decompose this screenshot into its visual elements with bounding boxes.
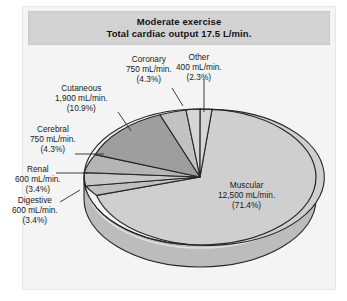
- label-cutaneous: Cutaneous 1,900 mL/min. (10.9%): [55, 83, 108, 114]
- figure-container: Moderate exercise Total cardiac output 1…: [0, 0, 347, 301]
- label-muscular-name: Muscular: [218, 180, 275, 190]
- label-cerebral-name: Cerebral: [30, 124, 76, 134]
- label-cerebral-value: 750 mL/min.: [30, 134, 76, 144]
- label-renal-value: 600 mL/min.: [15, 174, 61, 184]
- pie-top-face: [84, 109, 324, 245]
- label-cerebral-percent: (4.3%): [30, 144, 76, 154]
- label-coronary-name: Coronary: [126, 54, 172, 64]
- label-other: Other 400 mL/min. (2.3%): [176, 52, 222, 83]
- label-other-percent: (2.3%): [176, 72, 222, 82]
- label-muscular: Muscular 12,500 mL/min. (71.4%): [218, 180, 275, 211]
- label-cutaneous-name: Cutaneous: [55, 83, 108, 93]
- label-digestive-percent: (3.4%): [12, 215, 58, 225]
- leader-line-digestive: [60, 190, 80, 202]
- label-muscular-percent: (71.4%): [218, 200, 275, 210]
- label-cerebral: Cerebral 750 mL/min. (4.3%): [30, 124, 76, 155]
- label-digestive: Digestive 600 mL/min. (3.4%): [12, 195, 58, 226]
- label-coronary-value: 750 mL/min.: [126, 64, 172, 74]
- label-digestive-name: Digestive: [12, 195, 58, 205]
- label-other-name: Other: [176, 52, 222, 62]
- label-muscular-value: 12,500 mL/min.: [218, 190, 275, 200]
- label-other-value: 400 mL/min.: [176, 62, 222, 72]
- label-renal-name: Renal: [15, 164, 61, 174]
- label-coronary: Coronary 750 mL/min. (4.3%): [126, 54, 172, 85]
- label-cutaneous-value: 1,900 mL/min.: [55, 93, 108, 103]
- leader-line-coronary: [172, 88, 183, 106]
- label-renal: Renal 600 mL/min. (3.4%): [15, 164, 61, 195]
- label-cutaneous-percent: (10.9%): [55, 103, 108, 113]
- label-coronary-percent: (4.3%): [126, 74, 172, 84]
- label-digestive-value: 600 mL/min.: [12, 205, 58, 215]
- label-renal-percent: (3.4%): [15, 184, 61, 194]
